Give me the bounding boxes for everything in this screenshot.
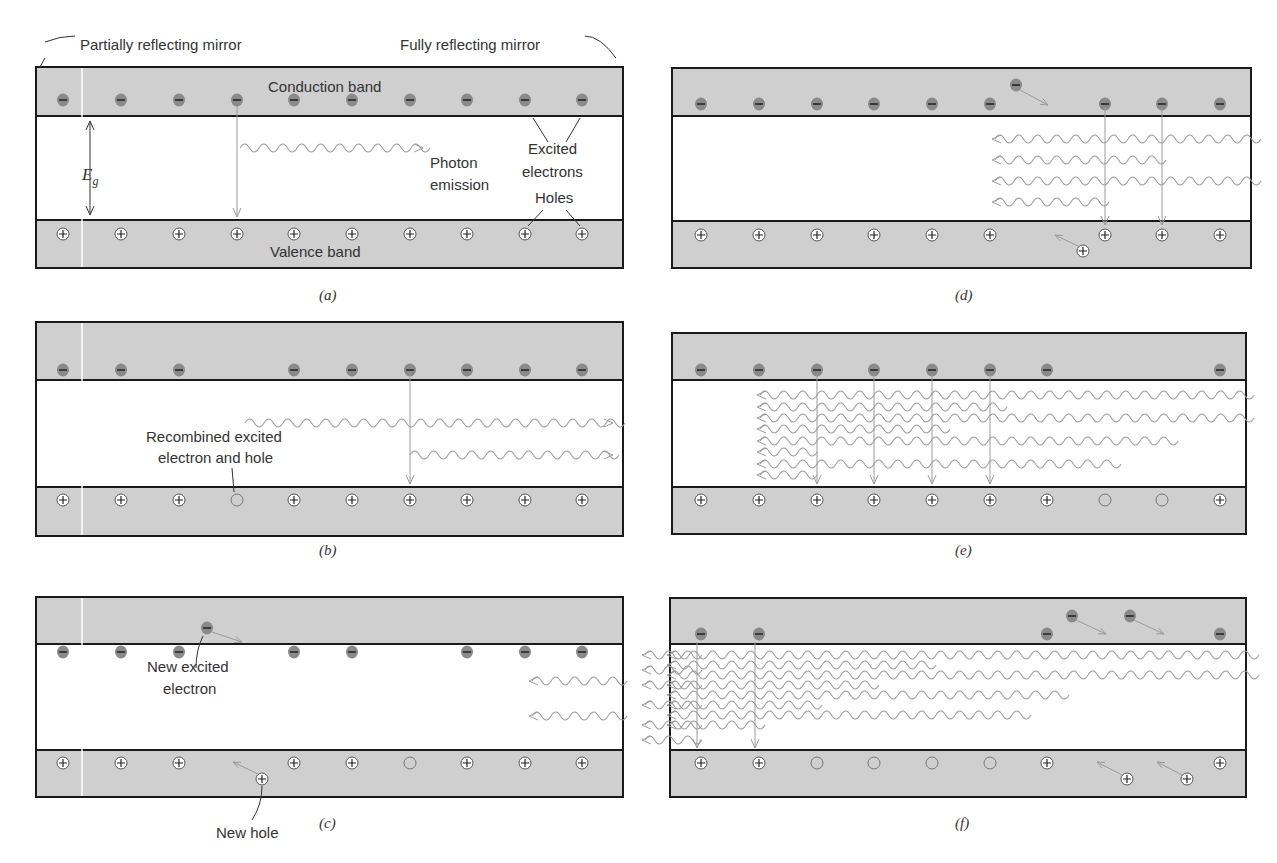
- new-hole-label: New hole: [216, 824, 279, 841]
- caption-d: (d): [955, 287, 973, 304]
- conduction-band-label: Conduction band: [268, 78, 381, 95]
- caption-c: (c): [319, 815, 336, 832]
- holes-label: Holes: [535, 189, 573, 206]
- recombined-label-2: electron and hole: [158, 449, 273, 466]
- photon-label-1: Photon: [430, 154, 478, 171]
- new-electron-label-1: New excited: [147, 658, 229, 675]
- partial-mirror-label: Partially reflecting mirror: [80, 36, 242, 53]
- valence-band-label: Valence band: [270, 243, 361, 260]
- caption-b: (b): [319, 542, 337, 559]
- caption-f: (f): [955, 815, 969, 832]
- caption-e: (e): [955, 542, 972, 559]
- labels-layer: Partially reflecting mirror Fully reflec…: [0, 0, 1277, 863]
- recombined-label-1: Recombined excited: [146, 428, 282, 445]
- excited-label-2: electrons: [522, 163, 583, 180]
- full-mirror-label: Fully reflecting mirror: [400, 36, 540, 53]
- new-electron-label-2: electron: [163, 680, 216, 697]
- excited-label-1: Excited: [528, 140, 577, 157]
- eg-label: Eg: [81, 165, 98, 188]
- photon-label-2: emission: [430, 176, 489, 193]
- caption-a: (a): [319, 287, 337, 304]
